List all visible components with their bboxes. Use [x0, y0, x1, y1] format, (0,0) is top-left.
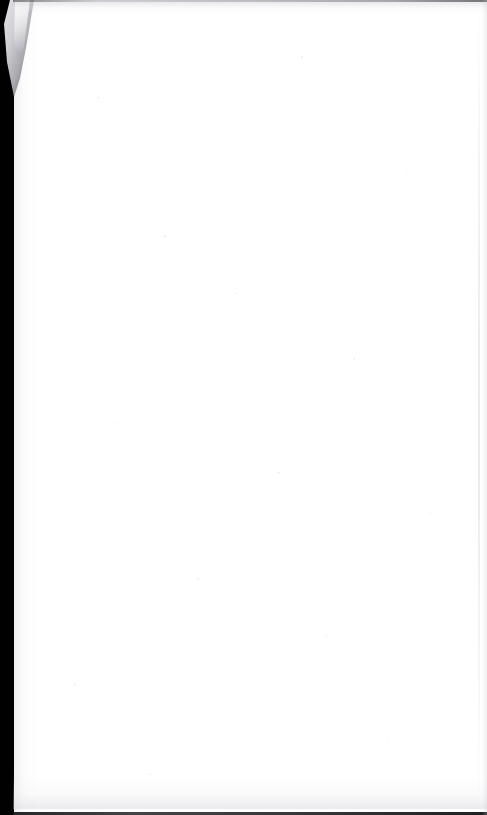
scanner-backing-left-margin: [0, 0, 14, 815]
scanned-document-page: [0, 0, 487, 815]
paper-sheet: [13, 0, 487, 815]
